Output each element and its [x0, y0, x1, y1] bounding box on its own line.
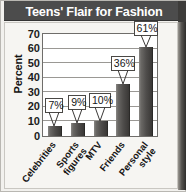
data-label: 10% [89, 93, 111, 108]
chart-figure: Teens' Flair for Fashion Percent 7060504… [0, 0, 186, 192]
data-label: 36% [111, 56, 135, 71]
y-tick-label: 20 [18, 101, 40, 112]
bar [116, 84, 130, 136]
y-tick-label: 40 [18, 72, 40, 83]
y-tick-label: 50 [18, 58, 40, 69]
data-label: 7% [45, 98, 63, 113]
callout-pointer [116, 70, 130, 85]
bar [94, 121, 108, 136]
callout-pointer [47, 112, 61, 127]
y-axis-ticks: 706050403020100 [16, 33, 40, 137]
y-tick-label: 30 [18, 87, 40, 98]
right-edge-strip [178, 22, 186, 190]
right-edge-strip-top [178, 1, 186, 22]
y-tick-label: 60 [18, 43, 40, 54]
y-tick-label: 10 [18, 116, 40, 127]
x-axis-labels: CelebritiesSportsfiguresMTVFriendsPerson… [42, 139, 158, 189]
callout-pointer [139, 35, 153, 48]
bar [71, 123, 85, 136]
data-label: 9% [68, 95, 86, 110]
chart-title: Teens' Flair for Fashion [25, 4, 162, 19]
y-tick-label: 70 [18, 29, 40, 40]
chart-title-bar: Teens' Flair for Fashion [4, 1, 184, 21]
y-tick-label: 0 [18, 131, 40, 142]
data-label: 61% [134, 21, 158, 36]
callout-pointer [93, 107, 107, 122]
bar [139, 47, 153, 136]
bar [48, 126, 62, 136]
callout-pointer [70, 109, 84, 124]
